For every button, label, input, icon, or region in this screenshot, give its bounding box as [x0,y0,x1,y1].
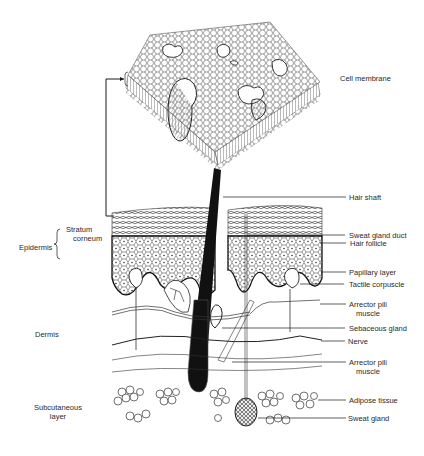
label-cell-membrane: Cell membrane [340,74,391,83]
label-subcutaneous-layer: Subcutaneous layer [34,403,82,421]
label-subcutaneous-line1: Subcutaneous [34,403,82,412]
label-stratum-corneum: Stratum corneum [66,225,102,243]
label-papillary-layer: Papillary layer [349,268,396,277]
skin-diagram [0,0,424,456]
label-arrector-pili-muscle-2: Arrector pili muscle [349,358,387,376]
label-tactile-corpuscle: Tactile corpuscle [349,280,404,289]
label-epidermis: Epidermis [19,243,52,252]
label-arrector-pili-1-line2: muscle [356,309,380,318]
label-sweat-gland: Sweat gland [348,414,389,423]
label-dermis: Dermis [35,330,59,339]
label-adipose-tissue: Adipose tissue [349,396,398,405]
label-stratum-corneum-line2: corneum [66,234,102,243]
label-arrector-pili-1-line1: Arrector pili [349,300,387,309]
label-subcutaneous-line2: layer [50,412,66,421]
label-arrector-pili-2-line1: Arrector pili [349,358,387,367]
cell-membrane-illustration [125,22,320,170]
label-arrector-pili-muscle-1: Arrector pili muscle [349,300,387,318]
label-hair-shaft: Hair shaft [349,193,381,202]
label-hair-follicle: Hair follicle [350,239,387,248]
label-arrector-pili-2-line2: muscle [356,367,380,376]
membrane-pointer-line [106,79,124,216]
label-nerve: Nerve [348,337,368,346]
skin-cross-section [112,168,322,426]
label-sebaceous-gland: Sebaceous gland [349,324,407,333]
label-stratum-corneum-line1: Stratum [66,225,92,234]
